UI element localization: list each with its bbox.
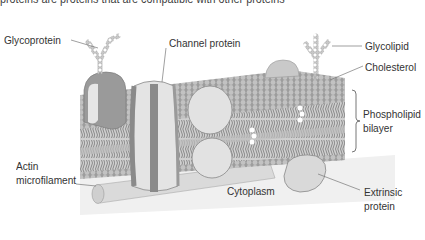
label-glycoprotein: Glycoprotein xyxy=(4,34,61,47)
glycoprotein xyxy=(84,36,126,129)
label-cytoplasm: Cytoplasm xyxy=(227,185,275,198)
glycolipid xyxy=(306,36,328,78)
label-channel-protein: Channel protein xyxy=(169,37,240,50)
bilayer-bracket xyxy=(352,90,360,152)
label-phospholipid-bilayer-1: Phospholipid xyxy=(363,108,421,121)
label-glycolipid: Glycolipid xyxy=(365,40,409,53)
label-extrinsic-1: Extrinsic xyxy=(364,186,402,199)
label-actin-2: microfilament xyxy=(16,174,76,187)
label-phospholipid-bilayer-2: bilayer xyxy=(363,122,393,135)
label-actin-1: Actin xyxy=(16,160,39,173)
label-extrinsic-2: protein xyxy=(364,200,395,213)
label-cholesterol: Cholesterol xyxy=(365,61,416,74)
channel-protein xyxy=(132,81,178,192)
peripheral-protein-top xyxy=(265,60,299,78)
